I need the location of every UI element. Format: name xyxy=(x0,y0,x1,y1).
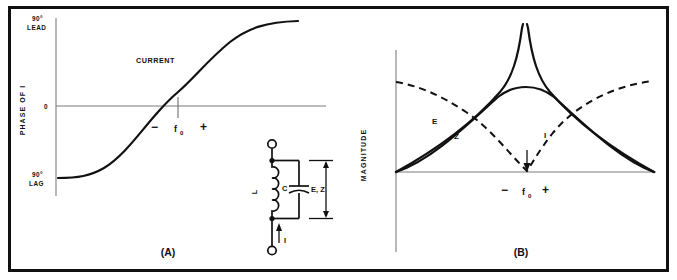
panel-a-ylabel-zero: 0 xyxy=(44,103,48,110)
panel-a-marker-f: f xyxy=(174,124,178,134)
panel-b-y-axis-title: MAGNITUDE xyxy=(360,129,367,181)
current-label: I xyxy=(284,236,286,245)
panel-a-canvas: 90° LEAD 0 90° LAG PHASE OF I CURRENT − … xyxy=(8,0,346,280)
panel-a-marker-plus: + xyxy=(200,120,207,134)
panel-a-ylabel-lead-deg: 90° xyxy=(32,15,43,22)
top-terminal xyxy=(268,140,276,148)
panel-b-canvas: MAGNITUDE E Z I − f 0 + (B) xyxy=(346,0,677,280)
voltage-magnitude-curve xyxy=(396,87,654,172)
panel-b-marker-minus: − xyxy=(501,183,508,197)
impedance-magnitude-curve xyxy=(396,24,523,172)
panel-b-curve-label-e: E xyxy=(432,117,438,126)
inductor-coil xyxy=(272,161,279,218)
inductor-label: L xyxy=(250,189,259,194)
panel-b-marker-plus: + xyxy=(542,183,549,197)
impedance-magnitude-curve-right xyxy=(527,24,654,172)
panel-a-ylabel-lag-deg: 90° xyxy=(32,171,43,178)
panel-a-caption: (A) xyxy=(161,246,176,258)
panel-b-curve-label-z: Z xyxy=(454,132,459,141)
panel-b-marker-f: f xyxy=(522,187,526,197)
capacitor-label: C xyxy=(282,184,288,193)
panel-a-curve-label-current: CURRENT xyxy=(136,56,175,65)
panel-a: 90° LEAD 0 90° LAG PHASE OF I CURRENT − … xyxy=(8,0,346,280)
ez-label: E, Z xyxy=(311,185,325,194)
panel-b-caption: (B) xyxy=(514,246,529,258)
panel-b-curve-label-i: I xyxy=(544,131,546,140)
figure-root: 90° LEAD 0 90° LAG PHASE OF I CURRENT − … xyxy=(0,0,677,280)
current-arrow-head xyxy=(276,223,282,231)
panel-a-marker-f-subscript: 0 xyxy=(180,130,184,136)
bottom-terminal xyxy=(268,246,276,254)
current-magnitude-curve xyxy=(396,81,652,171)
ez-arrow-head-down xyxy=(323,211,329,218)
panel-b-marker-f-subscript: 0 xyxy=(528,193,532,199)
ez-arrow-head-up xyxy=(323,161,329,168)
parallel-lc-tank-circuit: L C E, Z I xyxy=(250,140,333,255)
capacitor-plate-bottom xyxy=(289,190,309,193)
panel-b: MAGNITUDE E Z I − f 0 + (B) xyxy=(346,0,677,280)
panel-a-ylabel-lag: LAG xyxy=(29,180,44,187)
panel-a-marker-minus: − xyxy=(151,120,158,134)
panel-a-y-axis-title: PHASE OF I xyxy=(19,85,26,136)
panel-a-ylabel-lead: LEAD xyxy=(27,24,46,31)
